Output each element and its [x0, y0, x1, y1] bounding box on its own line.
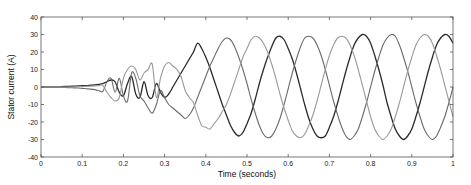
y-tick-labels: -40-30-20-10010203040: [28, 14, 38, 161]
x-tick-label: 0.9: [407, 160, 417, 167]
y-tick-label: 40: [30, 14, 38, 21]
y-tick-label: 0: [34, 84, 38, 91]
series-layer: [41, 34, 453, 139]
x-tick-label: 1: [451, 160, 455, 167]
x-tick-label: 0: [39, 160, 43, 167]
ticks-layer: [41, 17, 453, 157]
y-tick-label: -20: [28, 119, 38, 126]
series-line-phase-a: [41, 34, 453, 139]
axes-box: [41, 17, 453, 157]
x-axis-label: Time (seconds): [218, 169, 276, 179]
y-axis-label: Stator current (A): [6, 54, 16, 119]
x-tick-label: 0.8: [366, 160, 376, 167]
y-tick-label: -30: [28, 136, 38, 143]
y-tick-label: -10: [28, 101, 38, 108]
y-tick-label: 30: [30, 31, 38, 38]
x-tick-label: 0.6: [283, 160, 293, 167]
x-tick-label: 0.5: [242, 160, 252, 167]
x-tick-label: 0.4: [201, 160, 211, 167]
x-tick-label: 0.3: [160, 160, 170, 167]
stator-current-chart: -40-30-20-10010203040 00.10.20.30.40.50.…: [0, 0, 471, 185]
y-tick-label: -40: [28, 154, 38, 161]
y-tick-label: 20: [30, 49, 38, 56]
x-tick-label: 0.2: [119, 160, 129, 167]
x-tick-label: 0.7: [325, 160, 335, 167]
x-tick-labels: 00.10.20.30.40.50.60.70.80.91: [39, 160, 455, 167]
x-tick-label: 0.1: [77, 160, 87, 167]
y-tick-label: 10: [30, 66, 38, 73]
